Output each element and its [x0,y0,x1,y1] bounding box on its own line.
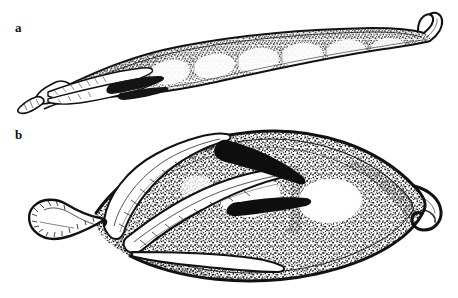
figure-plate: a b [0,0,458,298]
illustration-canvas [0,0,458,298]
pod-b-pedicel [29,200,106,239]
figure-a-slender-pod [18,13,450,113]
figure-b-inflated-pod [29,120,450,290]
panel-label-a: a [15,21,22,34]
panel-label-b: b [15,128,22,141]
